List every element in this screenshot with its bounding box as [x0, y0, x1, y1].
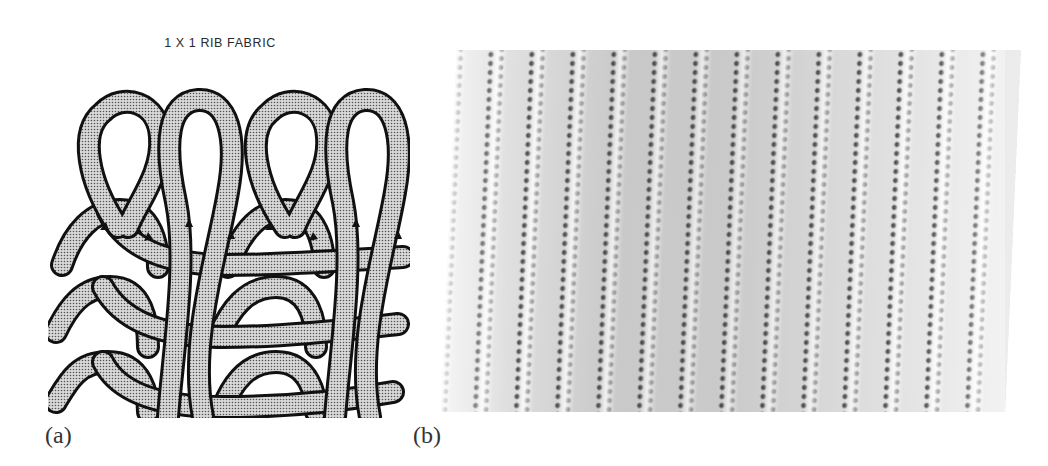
panel-label-a: (a)	[45, 422, 72, 449]
diagram-title: 1 X 1 RIB FABRIC	[0, 36, 440, 50]
rib-fabric-loop-diagram	[48, 62, 410, 418]
rib-fabric-photograph	[441, 50, 1021, 412]
panel-label-b: (b)	[413, 422, 441, 449]
panel-a: 1 X 1 RIB FABRIC	[0, 0, 440, 466]
top-loops	[89, 102, 327, 227]
